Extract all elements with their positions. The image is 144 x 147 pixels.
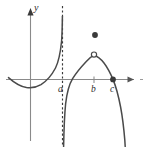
asymptote-label-a: a (58, 84, 63, 94)
filled-dot-at-c-icon (110, 77, 116, 83)
graph-figure: y a b c (0, 0, 144, 147)
tick-label-b: b (91, 84, 96, 94)
y-axis-label: y (33, 2, 39, 13)
left-branch-curve (9, 17, 63, 88)
x-axis (6, 77, 143, 83)
filled-dot-point-icon (92, 32, 98, 38)
y-axis (27, 8, 33, 141)
tick-label-c: c (110, 84, 115, 94)
graph-canvas: y a b c (0, 0, 144, 147)
right-branch-ascending-curve (64, 55, 94, 146)
x-axis-arrow-icon (128, 77, 135, 83)
open-circle-point-icon (91, 52, 96, 57)
right-branch-descending-curve (94, 55, 125, 146)
y-axis-arrow-icon (27, 8, 33, 16)
